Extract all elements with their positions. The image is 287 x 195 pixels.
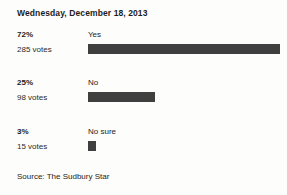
option-label: Yes: [88, 30, 101, 39]
option-label: No: [88, 78, 98, 87]
bar-track: [88, 44, 280, 54]
poll-results-chart: Wednesday, December 18, 2013 72% 285 vot…: [0, 0, 287, 195]
chart-title: Wednesday, December 18, 2013: [17, 8, 148, 18]
result-votes: 285 votes: [17, 45, 52, 54]
result-votes: 15 votes: [17, 142, 47, 151]
source-attribution: Source: The Sudbury Star: [17, 172, 109, 181]
option-label: No sure: [88, 127, 116, 136]
result-percent: 72%: [17, 30, 33, 39]
result-percent: 3%: [17, 127, 29, 136]
result-votes: 98 votes: [17, 93, 47, 102]
bar-fill: [88, 44, 280, 54]
bar-fill: [88, 92, 155, 102]
bar-fill: [88, 141, 96, 151]
result-percent: 25%: [17, 78, 33, 87]
bar-track: [88, 141, 280, 151]
bar-track: [88, 92, 280, 102]
